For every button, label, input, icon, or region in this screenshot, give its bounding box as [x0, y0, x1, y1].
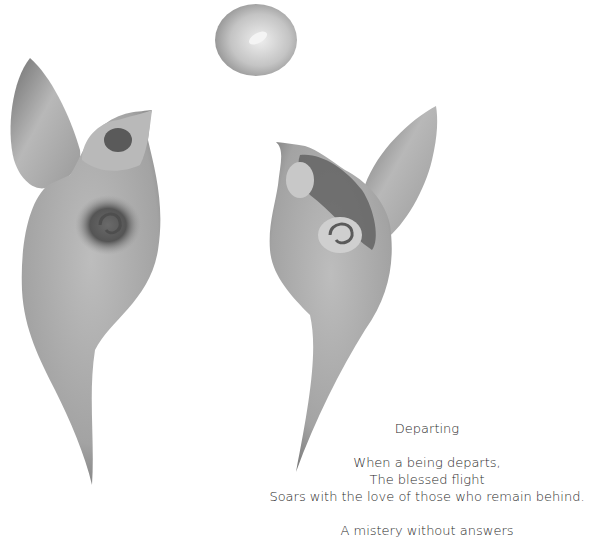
moon-shape: [215, 4, 297, 76]
left-bird-figure: [11, 58, 161, 485]
poem-line: A mistery without answers: [250, 522, 604, 539]
poem-line: The blessed flight: [250, 471, 604, 488]
poem-stanza-2: A mistery without answers: [250, 522, 604, 539]
poem-stanza-1: When a being departs, The blessed flight…: [250, 454, 604, 505]
poem-line: Soars with the love of those who remain …: [250, 488, 604, 505]
poem-line: When a being departs,: [250, 454, 604, 471]
poem: Departing When a being departs, The bles…: [250, 420, 604, 556]
right-bird-figure: [270, 106, 438, 472]
poem-title: Departing: [250, 420, 604, 437]
